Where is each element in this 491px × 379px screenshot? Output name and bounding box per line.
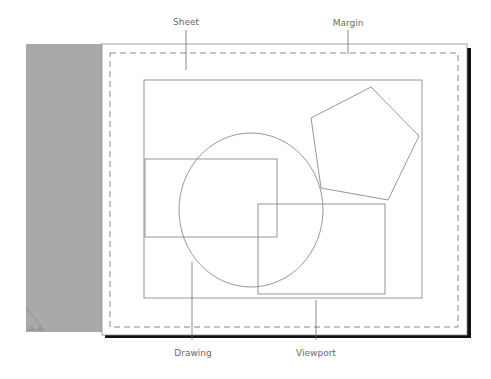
sheet [102, 44, 467, 335]
drawing-label: Drawing [174, 348, 211, 358]
margin-label: Margin [333, 18, 364, 28]
sheet-label: Sheet [173, 17, 199, 27]
viewport-label: Viewport [296, 348, 336, 358]
diagram-canvas [0, 0, 491, 379]
model-space-panel [26, 44, 102, 332]
